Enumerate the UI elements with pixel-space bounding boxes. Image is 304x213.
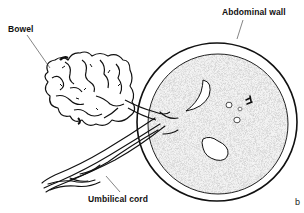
small-vessel-1 — [226, 102, 232, 108]
small-vessel-3 — [238, 107, 242, 111]
small-vessel-2 — [234, 117, 240, 123]
bowel-leader-line — [27, 35, 50, 68]
umbilical-cord-leader-line — [106, 176, 120, 192]
panel-letter: b — [295, 197, 300, 207]
abdominal-wall-leader-line — [237, 20, 243, 39]
umbilical-cord-label: Umbilical cord — [88, 194, 148, 204]
bowel-label: Bowel — [8, 24, 34, 34]
diagram-canvas — [0, 0, 304, 213]
abdominal-wall-label: Abdominal wall — [222, 7, 286, 17]
abdomen-interior — [148, 54, 288, 194]
abdomen — [137, 43, 297, 201]
